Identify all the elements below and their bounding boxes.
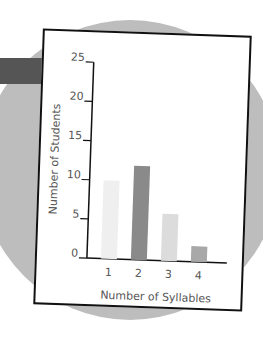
bar xyxy=(191,246,208,262)
x-tick-label: 2 xyxy=(135,267,142,280)
y-tick-label: 10 xyxy=(67,168,81,181)
bar xyxy=(161,214,179,262)
bar-chart: 05101520251234Number of SyllablesNumber … xyxy=(35,31,249,310)
y-axis xyxy=(87,62,94,258)
y-tick-label: 0 xyxy=(71,247,78,260)
x-tick-label: 4 xyxy=(195,269,202,282)
chart-card: 05101520251234Number of SyllablesNumber … xyxy=(33,28,252,311)
y-tick-label: 5 xyxy=(72,207,79,220)
x-tick-label: 1 xyxy=(105,266,112,279)
y-tick-label: 15 xyxy=(68,129,82,142)
bar xyxy=(101,180,120,259)
x-tick-label: 3 xyxy=(165,268,172,281)
y-axis-label: Number of Students xyxy=(46,103,63,214)
background-band xyxy=(0,58,42,84)
y-tick-label: 25 xyxy=(71,50,85,63)
bar xyxy=(131,166,150,261)
y-tick-label: 20 xyxy=(69,90,83,103)
x-axis-label: Number of Syllables xyxy=(100,289,211,306)
